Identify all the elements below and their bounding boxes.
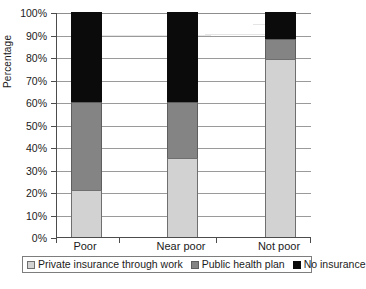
y-axis-tick-label: 70% [26, 76, 47, 86]
legend-item-no-insurance[interactable]: No insurance [293, 259, 366, 270]
no-insurance-swatch [293, 261, 301, 269]
x-axis-category-label-poor: Poor [55, 240, 115, 252]
legend: Private insurance through work Public he… [22, 256, 312, 273]
bar-segment-private-insurance[interactable] [167, 158, 198, 237]
bar-segment-no-insurance[interactable] [265, 12, 296, 39]
y-axis-tick-label: 40% [26, 143, 47, 153]
private-insurance-swatch [27, 261, 35, 269]
y-axis-tick-label: 30% [26, 166, 47, 176]
y-axis-tick-label: 50% [26, 121, 47, 131]
legend-item-label: Public health plan [202, 259, 285, 270]
x-axis-label-group: Poor Near poor Not poor [0, 240, 334, 256]
bar-segment-private-insurance[interactable] [265, 59, 296, 237]
bar-segment-public-health-plan[interactable] [265, 39, 296, 59]
y-axis-tick-label: 10% [26, 211, 47, 221]
legend-item-label: Private insurance through work [38, 259, 183, 270]
x-axis-category-label-near-poor: Near poor [146, 240, 216, 252]
legend-item-label: No insurance [304, 259, 366, 270]
bar-group-container [57, 13, 311, 237]
legend-item-private-insurance[interactable]: Private insurance through work [27, 259, 183, 270]
plot-area [56, 13, 311, 238]
public-health-plan-swatch [191, 261, 199, 269]
bar-segment-public-health-plan[interactable] [71, 102, 102, 190]
bar-segment-no-insurance[interactable] [71, 12, 102, 102]
bar-segment-no-insurance[interactable] [167, 12, 198, 102]
bar-segment-private-insurance[interactable] [71, 190, 102, 237]
y-axis-tick-label: 60% [26, 98, 47, 108]
y-axis-tick-label: 80% [26, 53, 47, 63]
y-axis-tick-label: 20% [26, 188, 47, 198]
y-axis-tick-label: 100% [20, 8, 47, 18]
bar-segment-public-health-plan[interactable] [167, 102, 198, 158]
x-axis-category-label-not-poor: Not poor [244, 240, 314, 252]
legend-item-public-health-plan[interactable]: Public health plan [191, 259, 285, 270]
y-axis-tick-label: 90% [26, 31, 47, 41]
